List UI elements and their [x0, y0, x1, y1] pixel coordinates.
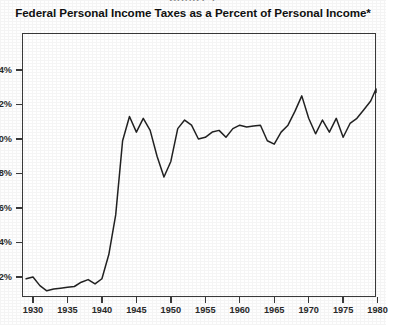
y-axis-label: 10% — [0, 135, 12, 144]
y-axis-tick — [16, 173, 23, 174]
y-axis-tick — [16, 242, 23, 243]
x-axis-tick — [170, 297, 171, 303]
x-axis-tick — [377, 297, 378, 303]
x-axis-label: 1980 — [358, 305, 393, 315]
y-axis-label: 8% — [0, 169, 12, 178]
x-axis-tick — [67, 297, 68, 303]
y-axis-label: 12% — [0, 100, 12, 109]
x-axis-tick — [239, 297, 240, 303]
x-axis-tick — [101, 297, 102, 303]
x-axis-tick — [274, 297, 275, 303]
page-title: Federal Personal Income Taxes as a Perce… — [0, 6, 386, 20]
y-axis-label: 6% — [0, 204, 12, 213]
x-axis-tick — [205, 297, 206, 303]
y-axis-tick — [16, 104, 23, 105]
y-axis-label: 14% — [0, 66, 12, 75]
y-axis-tick — [16, 138, 23, 139]
x-axis-tick — [342, 297, 343, 303]
y-axis-tick — [16, 69, 23, 70]
y-axis-tick — [16, 276, 23, 277]
x-axis-tick — [136, 297, 137, 303]
plot-frame — [22, 33, 376, 297]
x-axis-tick — [32, 297, 33, 303]
y-axis-label: 2% — [0, 273, 12, 282]
x-axis-tick — [308, 297, 309, 303]
y-axis-label: 4% — [0, 238, 12, 247]
chart-number-label: CHART 1 — [0, 0, 386, 1]
y-axis-tick — [16, 207, 23, 208]
